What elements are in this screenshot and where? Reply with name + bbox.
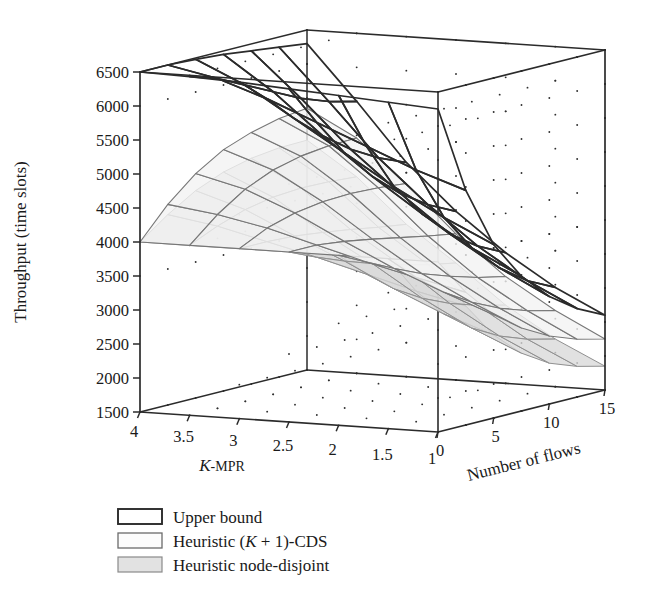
y-tick-label: 10 — [543, 413, 560, 432]
x-tick-label: 1.5 — [372, 445, 393, 464]
x-tick-label: 4 — [130, 422, 138, 441]
z-tick-label: 2000 — [96, 369, 129, 388]
y-tick-label: 0 — [436, 441, 444, 460]
x-axis-title: K-MPR — [198, 456, 245, 475]
y-tick-label: 5 — [492, 427, 500, 446]
legend-item[interactable]: Heuristic node-disjoint — [118, 556, 330, 575]
x-tick-label: 3 — [229, 431, 237, 450]
z-tick-label: 4000 — [96, 233, 129, 252]
x-tick-label: 3.5 — [173, 427, 194, 446]
z-tick-label: 3500 — [96, 267, 129, 286]
x-tick-label: 1 — [428, 449, 436, 468]
x-axis-title-rest: -MPR — [211, 459, 246, 474]
z-tick-label: 6500 — [96, 63, 129, 82]
z-tick-label: 2500 — [96, 335, 129, 354]
x-tick-label: 2 — [329, 440, 337, 459]
z-tick-label: 1500 — [96, 403, 129, 422]
z-tick-label: 5000 — [96, 165, 129, 184]
legend-swatch — [118, 557, 162, 572]
legend-label: Upper bound — [173, 508, 263, 527]
z-tick-label: 3000 — [96, 301, 129, 320]
x-tick-label: 2.5 — [273, 436, 294, 455]
z-tick-label: 5500 — [96, 131, 129, 150]
z-tick-label: 4500 — [96, 199, 129, 218]
legend-item[interactable]: Heuristic (K + 1)-CDS — [118, 532, 328, 551]
figure-3d-surface-plot: 6500600055005000450040003500300025002000… — [0, 0, 650, 611]
legend-swatch — [118, 509, 162, 524]
z-tick-label: 6000 — [96, 97, 129, 116]
legend-swatch — [118, 533, 162, 548]
y-tick-label: 15 — [599, 399, 616, 418]
legend-label: Heuristic node-disjoint — [173, 556, 330, 575]
z-axis-title: Throughput (time slots) — [11, 161, 30, 322]
legend-item[interactable]: Upper bound — [118, 508, 263, 527]
legend-label: Heuristic (K + 1)-CDS — [173, 532, 328, 551]
